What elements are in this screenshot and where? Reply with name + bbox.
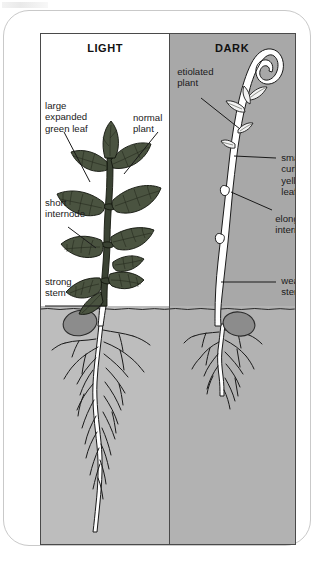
label-large-expanded-green-leaf: large expanded green leaf bbox=[45, 100, 88, 134]
label-weak-stem: weak stem bbox=[281, 275, 296, 298]
label-small-curled-yellow-leaf-line2: curled bbox=[281, 163, 296, 174]
label-elongated-internode-line1: elongated bbox=[275, 213, 296, 224]
label-normal-plant: normal plant bbox=[133, 112, 162, 135]
label-small-curled-yellow-leaf-line3: yellow bbox=[281, 175, 296, 186]
label-large-expanded-green-leaf-line1: large bbox=[45, 100, 88, 111]
figure-page: LIGHT bbox=[0, 0, 316, 566]
leader-small-curled-leaf bbox=[234, 156, 276, 158]
label-weak-stem-line2: stem bbox=[281, 286, 296, 297]
label-small-curled-yellow-leaf: small curled yellow leaf bbox=[281, 152, 296, 198]
label-etiolated-plant-line2: plant bbox=[177, 77, 213, 88]
label-strong-stem-line2: stem bbox=[45, 287, 72, 298]
label-normal-plant-line2: plant bbox=[133, 123, 162, 134]
label-short-internode-line1: short bbox=[45, 197, 85, 208]
leader-elongated-internode bbox=[231, 192, 272, 210]
label-weak-stem-line1: weak bbox=[281, 275, 296, 286]
label-large-expanded-green-leaf-line3: green leaf bbox=[45, 123, 88, 134]
label-small-curled-yellow-leaf-line4: leaf bbox=[281, 186, 296, 197]
dark-plant-artwork bbox=[169, 34, 296, 544]
light-root-system bbox=[52, 307, 150, 532]
label-elongated-internode-line2: internode bbox=[275, 224, 296, 235]
label-etiolated-plant: etiolated plant bbox=[177, 66, 213, 89]
panel-divider bbox=[169, 34, 170, 544]
label-strong-stem: strong stem bbox=[45, 276, 72, 299]
seed-cotyledon-dark bbox=[221, 309, 257, 338]
label-large-expanded-green-leaf-line2: expanded bbox=[45, 111, 88, 122]
label-normal-plant-line1: normal bbox=[133, 112, 162, 123]
label-strong-stem-line1: strong bbox=[45, 276, 72, 287]
panel-dark: DARK bbox=[169, 34, 295, 544]
panel-container: LIGHT bbox=[41, 34, 295, 544]
figure-card: LIGHT bbox=[3, 10, 311, 546]
dark-etiolated-stem bbox=[215, 49, 283, 326]
faint-artifact-mark bbox=[2, 2, 48, 8]
panel-light: LIGHT bbox=[41, 34, 169, 544]
label-small-curled-yellow-leaf-line1: small bbox=[281, 152, 296, 163]
label-short-internode: short internode bbox=[45, 197, 85, 220]
label-etiolated-plant-line1: etiolated bbox=[177, 66, 213, 77]
label-elongated-internode: elongated internode bbox=[275, 213, 296, 236]
figure-frame: LIGHT bbox=[40, 33, 296, 545]
dark-small-curled-leaves bbox=[221, 86, 267, 148]
dark-root-system bbox=[184, 309, 262, 409]
label-short-internode-line2: internode bbox=[45, 208, 85, 219]
